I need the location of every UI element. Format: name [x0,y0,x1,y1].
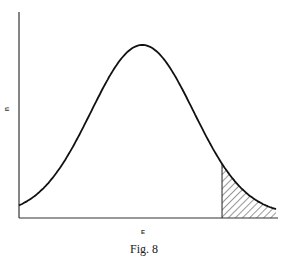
chart: E n [0,0,288,262]
x-axis-label: E [141,229,145,235]
y-axis-label: n [3,107,10,111]
bell-curve-line [19,45,276,209]
figure-caption: Fig. 8 [0,242,288,257]
shaded-tail-region [222,164,276,218]
